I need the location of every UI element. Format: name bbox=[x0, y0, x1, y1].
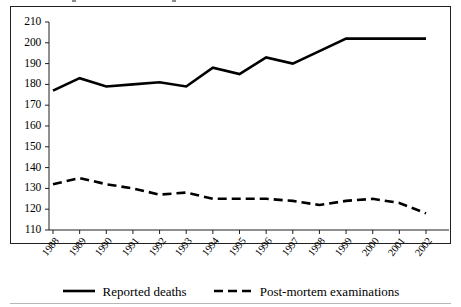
legend-swatch-solid-icon bbox=[62, 286, 96, 296]
footer-divider bbox=[10, 303, 451, 304]
legend-label-reported-deaths: Reported deaths bbox=[103, 285, 187, 298]
y-tick-label: 160 bbox=[15, 120, 41, 132]
y-tick-label: 130 bbox=[15, 182, 41, 194]
legend-item-reported-deaths: Reported deaths bbox=[62, 285, 187, 298]
scan-artifact-left bbox=[72, 0, 76, 2]
legend-item-post-mortem-examinations: Post-mortem examinations bbox=[213, 285, 400, 298]
series-line-dashed bbox=[53, 178, 426, 213]
y-tick-label: 110 bbox=[15, 224, 41, 236]
series-line-solid bbox=[53, 39, 426, 91]
chart-legend: Reported deaths Post-mortem examinations bbox=[10, 280, 451, 302]
y-tick-label: 180 bbox=[15, 78, 41, 90]
y-tick-label: 190 bbox=[15, 58, 41, 70]
chart-figure: 110120130140150160170180190200210 198819… bbox=[0, 0, 461, 307]
legend-swatch-dashed-icon bbox=[213, 286, 253, 296]
line-chart-canvas bbox=[11, 7, 450, 243]
y-tick-label: 200 bbox=[15, 37, 41, 49]
scan-artifact-right bbox=[172, 0, 176, 2]
y-tick-label: 140 bbox=[15, 162, 41, 174]
y-tick-label: 120 bbox=[15, 203, 41, 215]
y-tick-label: 150 bbox=[15, 141, 41, 153]
chart-plot-frame: 110120130140150160170180190200210 198819… bbox=[10, 6, 451, 244]
legend-label-post-mortem-examinations: Post-mortem examinations bbox=[260, 285, 400, 298]
y-tick-label: 210 bbox=[15, 16, 41, 28]
y-tick-label: 170 bbox=[15, 99, 41, 111]
